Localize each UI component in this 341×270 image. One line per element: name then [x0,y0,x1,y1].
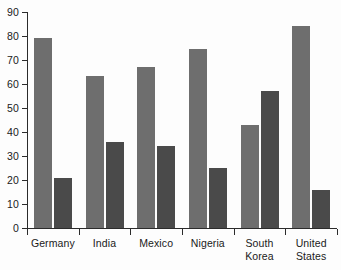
bar-nigeria-series-1 [189,49,207,228]
x-axis-label: Nigeria [182,237,234,250]
x-axis-label: United States [285,237,337,262]
x-axis-label: South Korea [234,237,286,262]
bar-germany-series-2 [54,178,72,228]
bar-south-korea-series-2 [261,91,279,228]
bar-united-states-series-1 [292,26,310,228]
bar-mexico-series-2 [157,146,175,228]
bar-chart: 0102030405060708090 GermanyIndiaMexicoNi… [0,0,341,270]
bar-germany-series-1 [34,38,52,228]
bar-india-series-2 [106,142,124,228]
bar-mexico-series-1 [137,67,155,228]
x-axis-label: India [79,237,131,250]
bar-india-series-1 [86,76,104,228]
bar-united-states-series-2 [312,190,330,228]
bar-nigeria-series-2 [209,168,227,228]
bars-layer [0,0,341,270]
bar-south-korea-series-1 [241,125,259,228]
x-axis-label: Mexico [130,237,182,250]
x-axis-label: Germany [27,237,79,250]
x-axis-labels: GermanyIndiaMexicoNigeriaSouth KoreaUnit… [0,237,341,270]
